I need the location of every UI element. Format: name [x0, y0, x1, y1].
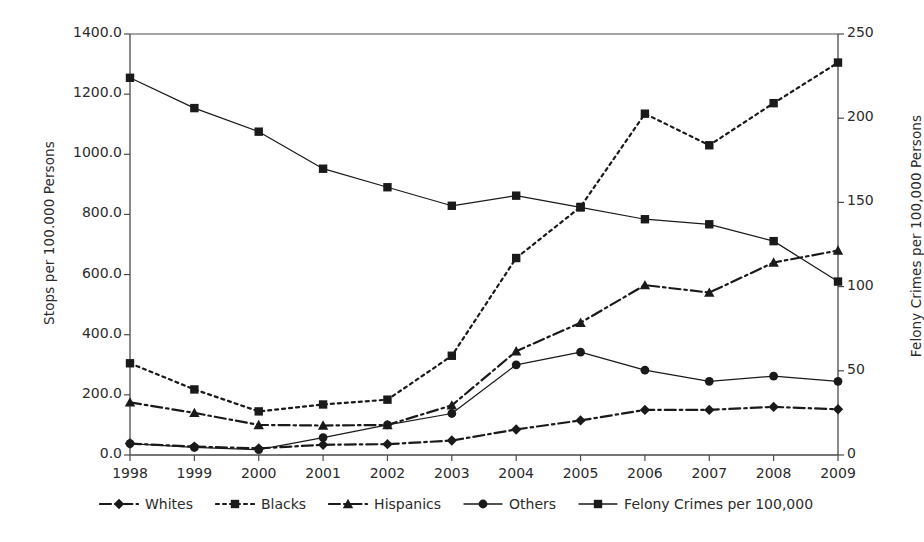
series-line — [130, 78, 838, 282]
y-axis-right-tick-label: 150 — [847, 192, 887, 208]
data-point-diamond-marker — [447, 435, 457, 445]
data-point-circle-marker — [447, 409, 456, 418]
data-point-square-marker — [512, 254, 520, 262]
data-point-circle-marker — [769, 372, 778, 381]
data-point-square-marker — [126, 74, 134, 82]
data-point-square-marker — [383, 395, 391, 403]
data-point-circle-marker — [512, 360, 521, 369]
x-axis-tick-label: 2005 — [551, 465, 611, 481]
x-axis-tick-label: 2007 — [679, 465, 739, 481]
data-point-diamond-marker — [704, 405, 714, 415]
x-axis-tick-label: 2006 — [615, 465, 675, 481]
legend-marker-diamond-icon — [99, 497, 139, 511]
x-axis-tick-label: 2004 — [486, 465, 546, 481]
data-point-square-marker — [834, 277, 842, 285]
series-blacks — [126, 58, 842, 415]
data-point-square-marker — [319, 165, 327, 173]
data-point-circle-marker — [319, 433, 328, 442]
legend-label: Blacks — [261, 496, 306, 512]
data-point-circle-marker — [641, 366, 650, 375]
data-point-square-marker — [769, 99, 777, 107]
data-point-square-marker — [705, 141, 713, 149]
x-axis-tick-label: 2009 — [808, 465, 868, 481]
data-point-diamond-marker — [382, 439, 392, 449]
legend-item[interactable]: Whites — [99, 496, 193, 512]
legend-marker — [479, 500, 488, 509]
legend-label: Hispanics — [374, 496, 441, 512]
data-point-diamond-marker — [640, 405, 650, 415]
y-axis-right-tick-label: 0 — [847, 445, 887, 461]
series-whites — [125, 402, 843, 454]
series-others — [126, 348, 843, 454]
legend-item[interactable]: Felony Crimes per 100,000 — [578, 496, 813, 512]
legend-item[interactable]: Blacks — [215, 496, 306, 512]
y-axis-left-tick-label: 600.0 — [40, 265, 122, 281]
data-point-square-marker — [255, 407, 263, 415]
data-point-triangle-marker — [833, 245, 843, 254]
legend-marker-square-icon — [578, 497, 618, 511]
data-point-square-marker — [834, 58, 842, 66]
data-point-square-marker — [576, 203, 584, 211]
x-axis-tick-label: 1998 — [100, 465, 160, 481]
data-point-square-marker — [255, 127, 263, 135]
data-point-circle-marker — [834, 377, 843, 386]
y-axis-right-tick-label: 100 — [847, 277, 887, 293]
data-point-circle-marker — [705, 377, 714, 386]
y-axis-right-tick-label: 250 — [847, 24, 887, 40]
data-point-square-marker — [190, 385, 198, 393]
y-axis-right-tick-label: 50 — [847, 361, 887, 377]
data-point-circle-marker — [190, 443, 199, 452]
data-point-circle-marker — [126, 439, 135, 448]
x-axis-tick-label: 2001 — [293, 465, 353, 481]
legend-marker — [114, 499, 124, 509]
y-axis-left-tick-label: 0.0 — [40, 445, 122, 461]
data-point-diamond-marker — [768, 402, 778, 412]
chart-legend: WhitesBlacksHispanicsOthersFelony Crimes… — [0, 496, 912, 512]
data-point-circle-marker — [383, 421, 392, 430]
series-felony-crimes-per-100-000 — [126, 74, 842, 286]
legend-label: Others — [509, 496, 556, 512]
y-axis-left-tick-label: 200.0 — [40, 385, 122, 401]
x-axis-tick-label: 2002 — [357, 465, 417, 481]
y-axis-left-tick-label: 1200.0 — [40, 84, 122, 100]
data-point-square-marker — [383, 183, 391, 191]
legend-marker-square-icon — [215, 497, 255, 511]
data-point-square-marker — [641, 109, 649, 117]
series-hispanics — [125, 245, 843, 429]
data-point-square-marker — [448, 352, 456, 360]
data-point-triangle-marker — [575, 317, 585, 326]
data-point-diamond-marker — [833, 404, 843, 414]
x-axis-tick-label: 1999 — [164, 465, 224, 481]
data-point-square-marker — [769, 237, 777, 245]
data-point-diamond-marker — [511, 424, 521, 434]
data-point-square-marker — [512, 191, 520, 199]
y-axis-left-tick-label: 1000.0 — [40, 144, 122, 160]
data-point-square-marker — [448, 202, 456, 210]
data-point-circle-marker — [254, 445, 263, 454]
legend-label: Felony Crimes per 100,000 — [624, 496, 813, 512]
legend-marker-circle-icon — [463, 497, 503, 511]
data-point-square-marker — [319, 400, 327, 408]
legend-marker — [594, 500, 602, 508]
data-point-square-marker — [190, 104, 198, 112]
y-axis-left-tick-label: 800.0 — [40, 204, 122, 220]
data-point-square-marker — [641, 215, 649, 223]
legend-marker-triangle-icon — [328, 497, 368, 511]
x-axis-tick-label: 2000 — [229, 465, 289, 481]
data-point-square-marker — [705, 220, 713, 228]
y-axis-left-tick-label: 400.0 — [40, 325, 122, 341]
series-line — [130, 407, 838, 448]
legend-marker — [231, 500, 239, 508]
y-axis-left-tick-label: 1400.0 — [40, 24, 122, 40]
data-point-diamond-marker — [575, 415, 585, 425]
x-axis-tick-label: 2003 — [422, 465, 482, 481]
series-line — [130, 251, 838, 426]
y-axis-right-tick-label: 200 — [847, 108, 887, 124]
x-axis-tick-label: 2008 — [744, 465, 804, 481]
data-point-circle-marker — [576, 348, 585, 357]
legend-item[interactable]: Hispanics — [328, 496, 441, 512]
legend-item[interactable]: Others — [463, 496, 556, 512]
legend-label: Whites — [145, 496, 193, 512]
